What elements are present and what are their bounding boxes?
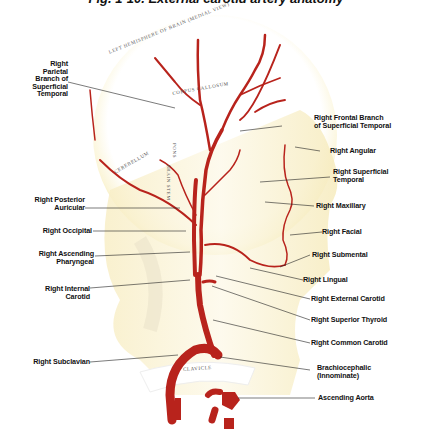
- label-right-occipital: Right Occipital: [43, 227, 92, 235]
- label-right-posterior-auricular: Right Posterior Auricular: [35, 196, 85, 211]
- label-right-frontal-branch: Right Frontal Branch of Superficial Temp…: [314, 114, 391, 129]
- label-ascending-aorta: Ascending Aorta: [318, 394, 374, 402]
- label-right-subclavian: Right Subclavian: [33, 358, 90, 366]
- label-right-ascending-pharyngeal: Right Ascending Pharyngeal: [39, 250, 94, 265]
- label-right-angular: Right Angular: [330, 147, 376, 155]
- label-right-superficial-temporal: Right Superficial Temporal: [333, 168, 388, 183]
- label-right-superior-thyroid: Right Superior Thyroid: [311, 316, 387, 324]
- label-right-submental: Right Submental: [312, 251, 368, 259]
- anat-brain-stem: BRAIN STEM: [166, 164, 171, 200]
- aorta-stub: [175, 398, 181, 420]
- label-right-facial: Right Facial: [322, 228, 362, 236]
- label-right-parietal: Right Parietal Branch of Superficial Tem…: [32, 60, 68, 98]
- label-right-lingual: Right Lingual: [303, 276, 348, 284]
- anat-pons: PONS: [172, 143, 177, 158]
- label-right-common-carotid: Right Common Carotid: [311, 339, 388, 347]
- label-right-external-carotid: Right External Carotid: [311, 295, 385, 303]
- label-brachiocephalic: Brachiocephalic (Innominate): [317, 364, 371, 379]
- label-right-internal-carotid: Right Internal Carotid: [45, 285, 90, 300]
- label-right-maxillary: Right Maxillary: [316, 202, 366, 210]
